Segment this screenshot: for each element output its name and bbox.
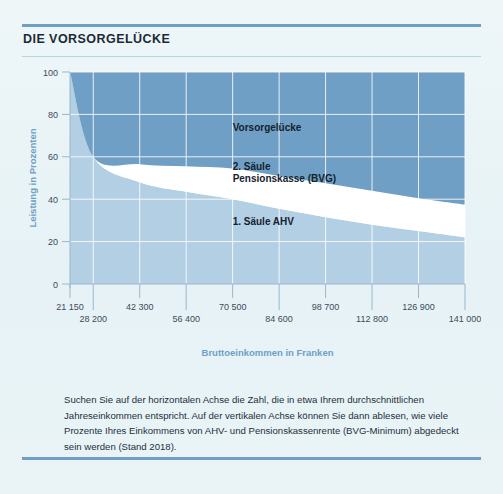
- x-axis: 21 15028 20042 30056 40070 50084 60098 7…: [56, 284, 481, 324]
- y-tick-label: 80: [48, 110, 58, 120]
- x-tick-label: 84 600: [265, 314, 293, 324]
- x-tick-label: 141 000: [449, 314, 481, 324]
- y-tick-label: 100: [43, 68, 58, 78]
- x-axis-title: Bruttoeinkommen in Franken: [202, 347, 334, 358]
- figure-caption: Suchen Sie auf der horizontalen Achse di…: [64, 392, 464, 454]
- area-chart: 020406080100 21 15028 20042 30056 40070 …: [22, 64, 481, 394]
- x-tick-label: 42 300: [126, 302, 154, 312]
- figure-page: DIE VORSORGELÜCKE 020406080100 21 15028 …: [0, 0, 503, 494]
- x-tick-label: 70 500: [219, 302, 247, 312]
- y-tick-label: 60: [48, 152, 58, 162]
- series-label: Pensionskasse (BVG): [233, 173, 336, 184]
- panel-bottom-rule: [22, 457, 481, 460]
- chart-svg: 020406080100 21 15028 20042 30056 40070 …: [22, 64, 481, 394]
- x-tick-label: 28 200: [79, 314, 107, 324]
- x-tick-label: 21 150: [56, 302, 84, 312]
- x-tick-label: 126 900: [402, 302, 435, 312]
- y-axis: 020406080100: [43, 68, 70, 290]
- y-axis-title: Leistung in Prozenten: [27, 128, 38, 227]
- series-label: 1. Säule AHV: [233, 216, 295, 227]
- y-tick-label: 40: [48, 195, 58, 205]
- page-title: DIE VORSORGELÜCKE: [23, 32, 170, 46]
- series-label: Vorsorgelücke: [233, 122, 302, 133]
- panel-top-rule: [22, 24, 481, 27]
- y-tick-label: 20: [48, 237, 58, 247]
- panel-title-underline: [22, 56, 481, 57]
- y-tick-label: 0: [53, 280, 58, 290]
- x-tick-label: 56 400: [172, 314, 200, 324]
- x-tick-label: 112 800: [356, 314, 388, 324]
- series-label: 2. Säule: [233, 161, 271, 172]
- chart-panel: DIE VORSORGELÜCKE 020406080100 21 15028 …: [22, 24, 481, 460]
- x-tick-label: 98 700: [312, 302, 340, 312]
